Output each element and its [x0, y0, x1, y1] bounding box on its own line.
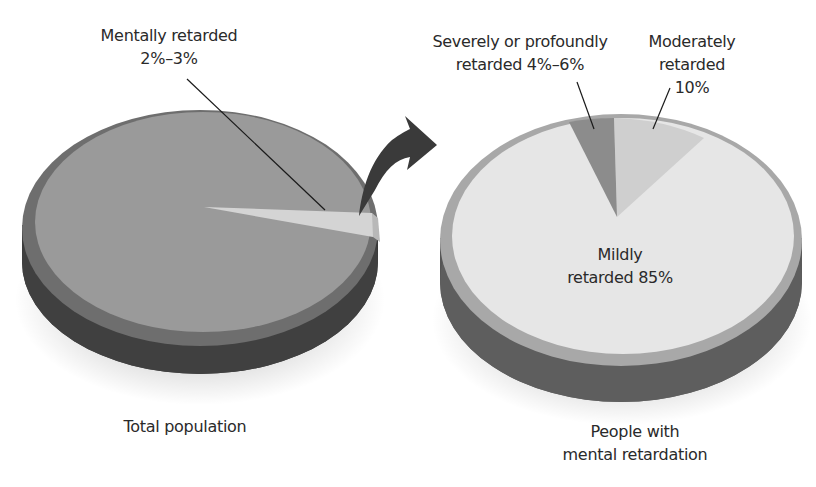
- caption-text: People with: [560, 420, 710, 443]
- caption-text: mental retardation: [560, 443, 710, 466]
- total-population-pie: [15, 79, 385, 405]
- label-value: 2%–3%: [98, 47, 240, 70]
- label-line: Moderately: [640, 30, 744, 53]
- label-mentally-retarded: Mentally retarded 2%–3%: [98, 24, 240, 70]
- label-moderately-retarded: Moderately retarded 10%: [640, 30, 744, 99]
- label-line: Mentally retarded: [98, 24, 240, 47]
- label-value: retarded 85%: [560, 266, 680, 289]
- caption-text: Total population: [110, 415, 260, 438]
- label-severely-retarded: Severely or profoundly retarded 4%–6%: [432, 30, 608, 76]
- caption-total-population: Total population: [110, 415, 260, 438]
- label-value: retarded 4%–6%: [432, 53, 608, 76]
- label-line: retarded: [640, 53, 744, 76]
- label-line: Mildly: [560, 243, 680, 266]
- label-mildly-retarded: Mildly retarded 85%: [560, 243, 680, 289]
- caption-people-with-mental-retardation: People with mental retardation: [560, 420, 710, 466]
- label-line: Severely or profoundly: [432, 30, 608, 53]
- label-value: 10%: [640, 76, 744, 99]
